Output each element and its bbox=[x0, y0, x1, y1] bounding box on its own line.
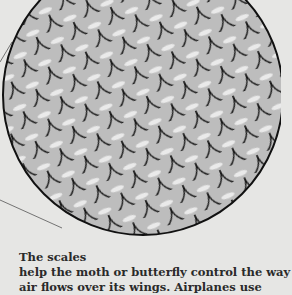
caption-title: The scales bbox=[19, 250, 281, 265]
pointer-line-lower bbox=[0, 200, 62, 228]
caption: The scales help the moth or butterfly co… bbox=[19, 250, 281, 295]
caption-line-2: air flows over its wings. Airplanes use bbox=[19, 280, 281, 295]
scales-pattern bbox=[0, 0, 281, 250]
caption-line-1: help the moth or butterfly control the w… bbox=[19, 265, 281, 280]
